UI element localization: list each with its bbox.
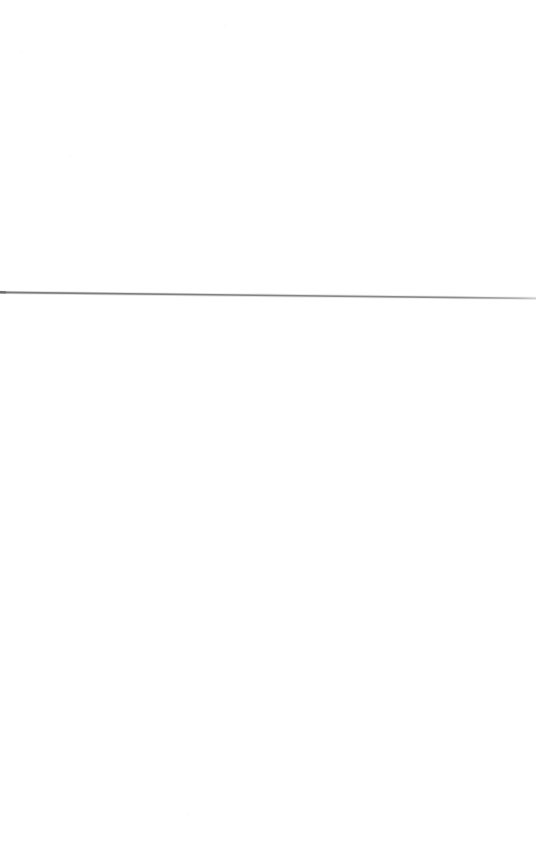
horizontal-rule-core [0, 292, 536, 298]
horizontal-rule-layer [0, 0, 536, 866]
page-canvas: A blank white page with one thin horizon… [0, 0, 536, 866]
